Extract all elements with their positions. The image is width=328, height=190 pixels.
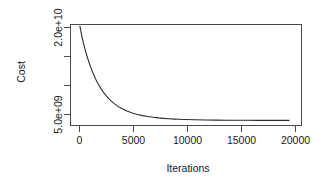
x-tick-label-10000: 10000: [173, 134, 202, 146]
y-axis-title: Cost: [15, 61, 27, 83]
x-axis-ticks: [80, 126, 296, 133]
cost-decay-curve: [80, 26, 289, 120]
y-tick-label-5e09: 5.0e+09: [52, 95, 64, 133]
x-tick-label-15000: 15000: [227, 134, 256, 146]
x-tick-label-0: 0: [77, 134, 83, 146]
cost-vs-iterations-plot: 2.0e+10 5.0e+09 Cost 0 5000 10000 15000 …: [0, 0, 328, 190]
plot-box: [71, 25, 302, 126]
y-tick-label-2e10: 2.0e+10: [52, 8, 64, 46]
x-tick-label-20000: 20000: [281, 134, 310, 146]
y-axis-ticks: [64, 28, 71, 115]
x-axis-title: Iterations: [166, 162, 209, 174]
x-tick-label-5000: 5000: [122, 134, 146, 146]
chart-figure: 2.0e+10 5.0e+09 Cost 0 5000 10000 15000 …: [0, 0, 328, 190]
